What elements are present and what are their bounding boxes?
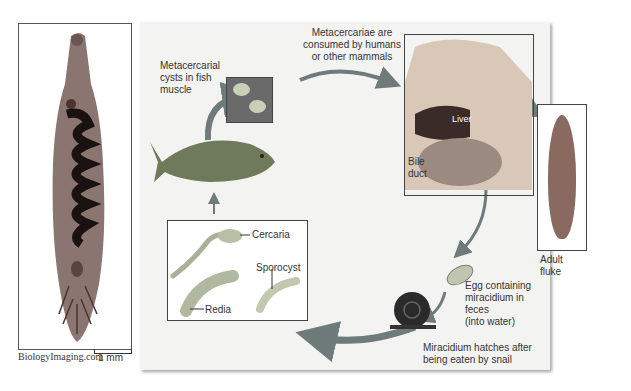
label-line: consumed by humans [292,39,412,51]
label-line: duct [408,168,427,180]
label-line: Metacercarial [160,60,220,72]
label-line: muscle [160,84,220,96]
larvae-box: Cercaria Sporocyst Redia [167,220,308,321]
label-metacercarial-cysts: Metacercarial cysts in fish muscle [160,60,220,96]
label-consumed: Metacercariae are consumed by humans or … [292,27,412,63]
snail-illustration [390,292,436,328]
label-line: or other mammals [292,51,412,63]
fluke-photo [19,24,131,349]
adult-fluke-illustration [548,115,576,239]
label-line: Metacercariae are [292,27,412,39]
label-line: Egg containing [465,280,550,292]
label-egg: Egg containing miracidium in feces (into… [465,280,550,328]
label-line: miracidium in feces [465,292,550,316]
label-liver: Liver [452,114,472,124]
label-miracidium: Miracidium hatches after being eaten by … [423,342,532,366]
fish-illustration [150,141,275,182]
cyst-icon [233,83,250,96]
photo-credit: BiologyImaging.com [18,351,103,362]
cyst-box [226,77,273,123]
cyst-icon [249,100,266,113]
label-bile-duct: Bile duct [408,156,427,180]
adult-fluke-box [537,104,587,251]
label-cercaria: Cercaria [252,229,290,241]
label-redia: Redia [205,304,231,316]
label-line: being eaten by snail [423,354,532,366]
scale-label: 1 mm [98,352,123,363]
label-line: Miracidium hatches after [423,342,532,354]
life-cycle-panel: Metacercarial cysts in fish muscle Metac… [140,22,550,370]
label-line: (into water) [465,316,550,328]
label-line: cysts in fish [160,72,220,84]
label-line: Bile [408,156,427,168]
label-adult-fluke: Adult fluke [540,254,563,278]
label-sporocyst: Sporocyst [256,262,300,274]
fluke-photo-frame [18,23,132,350]
